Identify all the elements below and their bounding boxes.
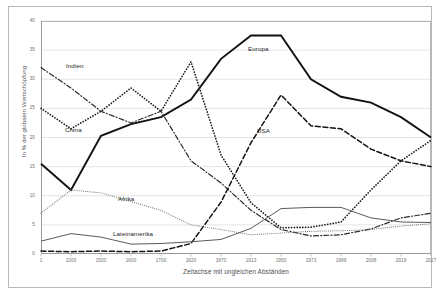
- x-tick-label: 1870: [204, 258, 238, 263]
- x-tick-label: 2027: [414, 258, 441, 263]
- series-label-indien: Indien: [66, 62, 83, 69]
- series-line-europa: [41, 36, 431, 190]
- x-tick-label: 2008: [354, 258, 388, 263]
- series-line-lateinamerika: [41, 207, 431, 244]
- x-tick-label: 1700: [144, 258, 178, 263]
- x-tick-label: 2019: [384, 258, 418, 263]
- y-tick-label: 0: [13, 251, 35, 256]
- chart-series-layer: [0, 0, 441, 295]
- y-tick-label: 40: [13, 18, 35, 23]
- series-line-indien: [41, 68, 431, 236]
- y-tick-label: 5: [13, 222, 35, 227]
- x-tick-label: 1989: [324, 258, 358, 263]
- x-axis-title: Zeitachse mit ungleichen Abständen: [41, 268, 431, 275]
- series-label-lateinamerika: Lateinamerika: [113, 230, 153, 237]
- series-line-china: [41, 62, 431, 228]
- y-tick-label: 10: [13, 193, 35, 198]
- x-tick-label: 1: [24, 258, 58, 263]
- series-label-china: China: [65, 126, 82, 133]
- x-tick-label: 1000: [54, 258, 88, 263]
- series-label-afrika: Afrika: [118, 195, 134, 202]
- y-axis-title: In % der globalen Wertschöpfung: [20, 37, 27, 187]
- x-tick-label: 1500: [84, 258, 118, 263]
- x-tick-label: 1950: [264, 258, 298, 263]
- x-tick-label: 1600: [114, 258, 148, 263]
- x-tick-label: 1913: [234, 258, 268, 263]
- x-tick-label: 1973: [294, 258, 328, 263]
- series-label-usa: USA: [257, 127, 270, 134]
- series-label-europa: Europa: [248, 45, 269, 52]
- x-tick-label: 1820: [174, 258, 208, 263]
- chart-figure: 0510152025303540 11000150016001700182018…: [0, 0, 441, 295]
